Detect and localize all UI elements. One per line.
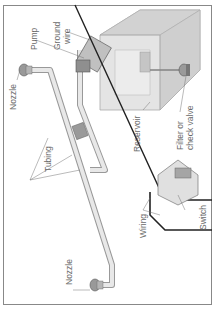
nozzle-top bbox=[19, 64, 32, 76]
label-ground-wire-1: Ground bbox=[52, 21, 62, 50]
label-filter-1: Filter or bbox=[175, 121, 185, 150]
washer-system-diagram: Pump Ground wire Nozzle Tubing Reservoir… bbox=[0, 0, 219, 311]
filter-check-valve bbox=[179, 64, 190, 76]
label-tubing: Tubing bbox=[43, 146, 53, 172]
label-wiring: Wiring bbox=[138, 214, 148, 238]
label-reservoir: Reservoir bbox=[132, 115, 142, 152]
label-pump: Pump bbox=[29, 28, 39, 50]
label-ground-wire-2: wire bbox=[62, 28, 72, 45]
label-nozzle-bottom: Nozzle bbox=[64, 259, 74, 285]
label-filter-2: check valve bbox=[185, 105, 195, 150]
label-switch: Switch bbox=[198, 205, 208, 230]
label-nozzle-top: Nozzle bbox=[8, 84, 18, 110]
